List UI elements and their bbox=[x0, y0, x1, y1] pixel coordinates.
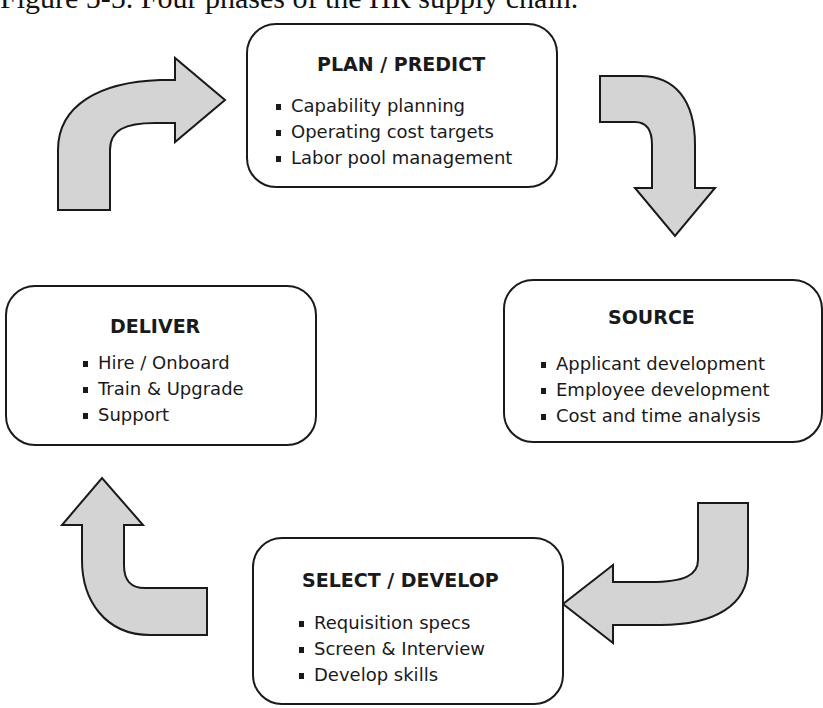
phase-title: SOURCE bbox=[608, 306, 695, 328]
list-item: Support bbox=[83, 402, 244, 428]
list-item: Train & Upgrade bbox=[83, 376, 244, 402]
list-item: Requisition specs bbox=[299, 610, 485, 636]
list-item: Screen & Interview bbox=[299, 636, 485, 662]
list-item: Employee development bbox=[541, 377, 770, 403]
curved-arrow-right-down-icon bbox=[600, 76, 715, 236]
list-item: Hire / Onboard bbox=[83, 350, 244, 376]
list-item: Labor pool management bbox=[276, 145, 512, 171]
curved-arrow-up-right-icon bbox=[58, 58, 225, 210]
phase-title: PLAN / PREDICT bbox=[317, 53, 485, 75]
curved-arrow-left-up-icon bbox=[62, 478, 207, 635]
list-item: Applicant development bbox=[541, 351, 770, 377]
phase-items: Hire / Onboard Train & Upgrade Support bbox=[83, 350, 244, 428]
list-item: Develop skills bbox=[299, 662, 485, 688]
list-item: Operating cost targets bbox=[276, 119, 512, 145]
phase-items: Capability planning Operating cost targe… bbox=[276, 93, 512, 171]
list-item: Capability planning bbox=[276, 93, 512, 119]
phase-box-plan: PLAN / PREDICT Capability planning Opera… bbox=[246, 23, 558, 188]
phase-box-deliver: DELIVER Hire / Onboard Train & Upgrade S… bbox=[5, 285, 317, 446]
phase-items: Requisition specs Screen & Interview Dev… bbox=[299, 610, 485, 688]
curved-arrow-down-left-icon bbox=[563, 503, 748, 643]
phase-items: Applicant development Employee developme… bbox=[541, 351, 770, 429]
phase-title: SELECT / DEVELOP bbox=[302, 569, 499, 591]
list-item: Cost and time analysis bbox=[541, 403, 770, 429]
phase-box-source: SOURCE Applicant development Employee de… bbox=[503, 279, 823, 443]
phase-title: DELIVER bbox=[110, 315, 200, 337]
phase-box-select: SELECT / DEVELOP Requisition specs Scree… bbox=[252, 537, 564, 705]
